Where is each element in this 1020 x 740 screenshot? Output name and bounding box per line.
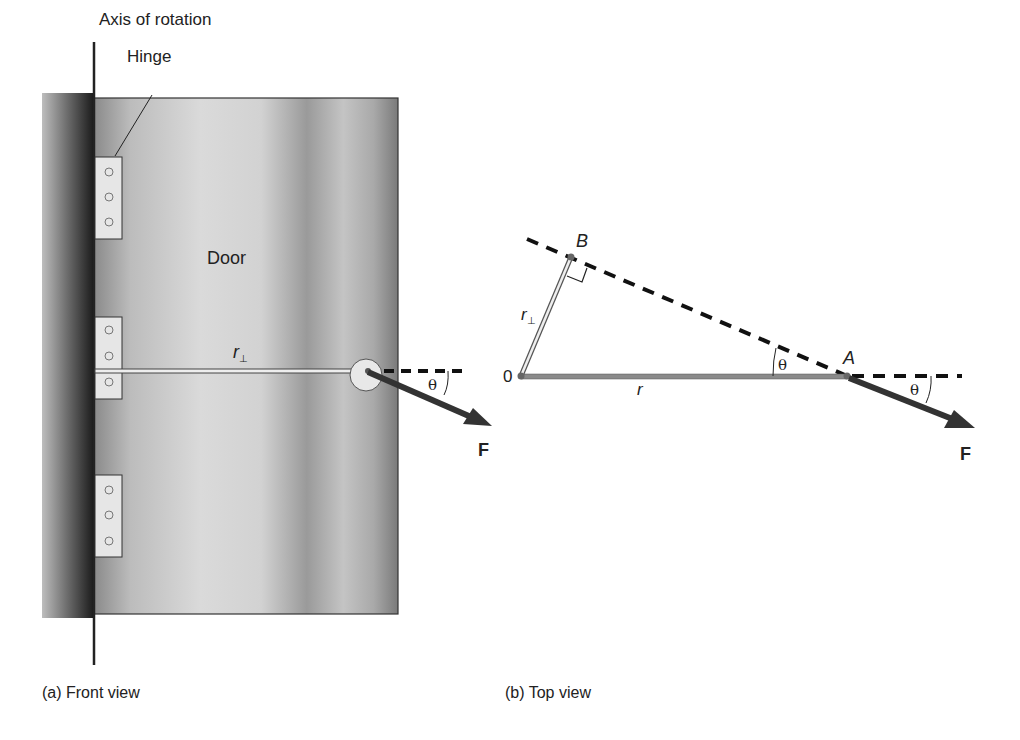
hinge-top: [95, 157, 122, 239]
line-of-action-dashed: [527, 239, 845, 375]
theta-inner-label: θ: [778, 356, 787, 374]
theta-arc: [444, 371, 448, 395]
force-label: F: [478, 440, 489, 461]
caption-front-view: (a) Front view: [42, 684, 140, 702]
right-angle-marker: [567, 268, 587, 282]
r-perp-label: r⊥: [233, 342, 248, 364]
caption-top-view: (b) Top view: [505, 684, 591, 702]
point-origin: [518, 373, 525, 380]
r-perp-rod: [95, 369, 370, 373]
wall: [42, 93, 94, 618]
hinge-middle: [95, 317, 122, 399]
point-b: [568, 254, 575, 261]
force-label-top: F: [960, 444, 971, 465]
theta-label: θ: [428, 376, 437, 394]
front-view: [42, 42, 492, 665]
theta-arc-outer: [926, 376, 931, 403]
r-perp-label-top: r⊥: [521, 305, 536, 326]
r-label: r: [637, 380, 643, 400]
theta-arc-inner: [773, 348, 776, 376]
hinge-bottom: [95, 475, 122, 557]
axis-of-rotation-label: Axis of rotation: [99, 10, 211, 30]
r-rod: [521, 374, 847, 379]
point-a-label: A: [843, 348, 855, 369]
top-view: [518, 239, 976, 428]
theta-outer-label: θ: [910, 381, 919, 399]
force-arrow-top: [849, 378, 955, 420]
point-b-label: B: [576, 231, 588, 252]
door-label: Door: [207, 248, 246, 269]
hinge-label: Hinge: [127, 47, 171, 67]
origin-label: 0: [503, 367, 512, 387]
